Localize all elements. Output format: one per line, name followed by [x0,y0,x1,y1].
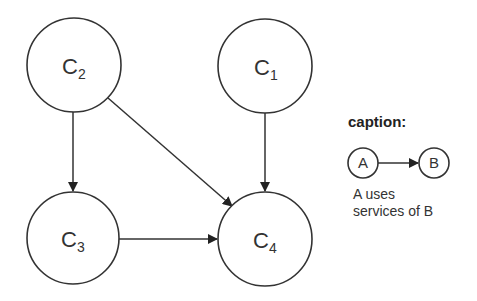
legend-text-line2: services of B [353,203,433,219]
edge-c2-c4 [108,98,232,206]
legend-text-line1: A uses [353,186,395,202]
node-c2-subscript: 2 [78,66,86,82]
node-c3-subscript: 3 [77,239,85,255]
legend-title: caption: [348,113,406,130]
legend-node-a-label: A [358,154,368,171]
node-c4: C4 [218,192,312,286]
node-c1: C1 [218,19,312,113]
node-c3: C3 [27,192,119,284]
node-c1-label: C [254,55,270,80]
node-c3-label: C [61,227,77,252]
legend: caption: A B A uses services of B [348,113,449,219]
node-c4-label: C [253,228,269,253]
node-c1-subscript: 1 [270,67,278,83]
node-c4-subscript: 4 [269,240,277,256]
legend-node-b-label: B [429,154,439,171]
dependency-diagram: C2 C1 C3 C4 caption: A B A uses services… [0,0,477,301]
node-c2: C2 [27,18,121,112]
node-c2-label: C [62,54,78,79]
